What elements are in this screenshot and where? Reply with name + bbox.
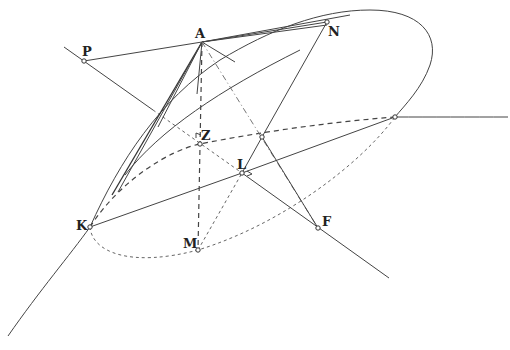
main-curve <box>8 10 433 336</box>
label-M: M <box>183 236 197 251</box>
line-A-K1 <box>112 42 202 195</box>
point-X <box>260 135 264 139</box>
geometry-diagram: A P N Z L K M F <box>0 0 510 350</box>
point-K <box>88 225 92 229</box>
line-N-X <box>262 22 327 137</box>
line-PA <box>84 42 202 61</box>
line-A-K3 <box>158 42 202 127</box>
line-X-F <box>262 137 318 228</box>
dashed-ellipse-lower <box>90 117 395 258</box>
line-P-F <box>64 47 153 110</box>
line-A-top2 <box>202 25 327 42</box>
point-P <box>82 59 86 63</box>
label-Z: Z <box>201 128 211 143</box>
label-N: N <box>328 24 340 39</box>
right-angle-L <box>247 171 252 176</box>
label-F: F <box>322 214 332 229</box>
line-M-L <box>198 173 242 250</box>
line-P-F-dash <box>153 110 242 173</box>
label-A: A <box>194 26 206 41</box>
line-A-right <box>202 42 235 62</box>
point-F <box>316 226 320 230</box>
line-L-R <box>242 117 395 173</box>
label-K: K <box>76 218 88 233</box>
label-P: P <box>82 44 92 59</box>
label-L: L <box>237 157 246 172</box>
point-R <box>393 115 397 119</box>
line-A-K2 <box>118 42 202 192</box>
line-L-F <box>242 173 389 278</box>
